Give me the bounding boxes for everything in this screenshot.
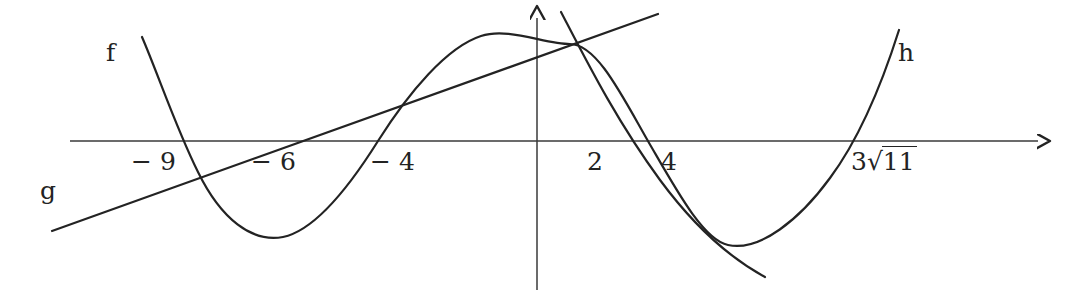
tick-label-neg6: − 6 (251, 147, 296, 176)
line-g (52, 14, 658, 231)
tick-label-neg9: − 9 (131, 147, 176, 176)
tick-label-2: 2 (587, 147, 603, 176)
sqrt-coefficient: 3 (851, 147, 867, 176)
curve-label-g: g (40, 176, 56, 205)
radical-sign-group: √11 (867, 147, 917, 176)
curve-label-h: h (898, 38, 914, 67)
curve-h (561, 12, 765, 277)
tick-label-neg4: − 4 (370, 147, 415, 176)
tick-label-4: 4 (661, 147, 677, 176)
radicand: 11 (882, 146, 917, 176)
curve-label-f: f (106, 38, 115, 67)
tick-label-three-root-eleven: 3√11 (851, 147, 917, 176)
radical-sign: √ (867, 147, 883, 176)
graph-canvas: f g h − 9 − 6 − 4 2 4 3√11 (0, 0, 1072, 303)
